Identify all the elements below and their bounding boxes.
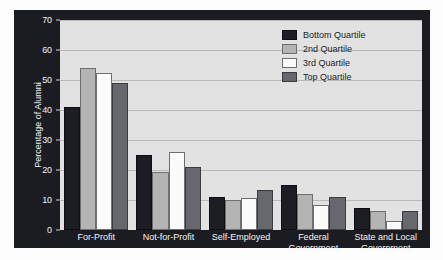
legend-swatch-icon — [282, 72, 297, 82]
x-tick-label: State and Local Government — [354, 232, 418, 254]
x-tick-label: Not-for-Profit — [136, 232, 200, 243]
legend-item[interactable]: 2nd Quartile — [282, 42, 400, 55]
y-tick-label: 0 — [47, 226, 52, 235]
bar-group — [64, 20, 128, 230]
bar — [402, 211, 418, 230]
bar — [329, 197, 345, 230]
chart-figure: Percentage of Alumni 010203040506070 For… — [0, 0, 443, 260]
legend-label: Bottom Quartile — [303, 30, 366, 40]
legend-item[interactable]: 3rd Quartile — [282, 56, 400, 69]
legend-label: 3rd Quartile — [303, 58, 350, 68]
bar — [241, 198, 257, 230]
bar — [96, 73, 112, 231]
y-tick-label: 50 — [42, 76, 52, 85]
y-tick-label: 70 — [42, 16, 52, 25]
y-tick-label: 30 — [42, 136, 52, 145]
bar — [112, 83, 128, 230]
bar — [386, 221, 402, 230]
bar — [185, 167, 201, 230]
bar — [64, 107, 80, 230]
y-tick-label: 10 — [42, 196, 52, 205]
bar — [80, 68, 96, 230]
x-tick-label: Self-Employed — [209, 232, 273, 243]
legend-label: 2nd Quartile — [303, 44, 352, 54]
bar — [225, 200, 241, 230]
bar — [313, 205, 329, 231]
bar-group — [136, 20, 200, 230]
legend-item[interactable]: Top Quartile — [282, 70, 400, 83]
legend-swatch-icon — [282, 58, 297, 68]
bar — [370, 211, 386, 231]
bar — [281, 185, 297, 230]
x-tick-label: For-Profit — [64, 232, 128, 243]
y-tick-label: 20 — [42, 166, 52, 175]
bar — [169, 152, 185, 230]
chart-frame: Percentage of Alumni 010203040506070 For… — [14, 10, 430, 248]
x-axis: For-ProfitNot-for-ProfitSelf-EmployedFed… — [60, 232, 422, 260]
y-tick-label: 40 — [42, 106, 52, 115]
bar — [257, 190, 273, 231]
bar — [297, 194, 313, 230]
y-tick-label: 60 — [42, 46, 52, 55]
chart-legend: Bottom Quartile2nd Quartile3rd QuartileT… — [282, 28, 400, 84]
x-tick-label: Federal Government — [281, 232, 345, 254]
bar — [209, 197, 225, 230]
bar — [152, 172, 168, 231]
legend-swatch-icon — [282, 30, 297, 40]
legend-label: Top Quartile — [303, 72, 352, 82]
y-axis: Percentage of Alumni 010203040506070 — [14, 10, 60, 240]
bar — [354, 208, 370, 231]
bar-group — [209, 20, 273, 230]
legend-item[interactable]: Bottom Quartile — [282, 28, 400, 41]
bar — [136, 155, 152, 230]
legend-swatch-icon — [282, 44, 297, 54]
